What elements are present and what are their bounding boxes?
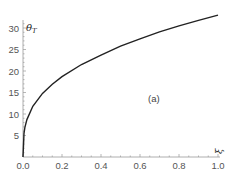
x-tick-label: 1.0 [211, 160, 224, 171]
axes [23, 20, 220, 157]
theta-curve [23, 15, 218, 157]
y-tick-label: 10 [8, 109, 19, 120]
y-tick-label: 15 [8, 87, 19, 98]
y-tick-label: 25 [8, 44, 19, 55]
y-tick-label: 20 [8, 66, 19, 77]
panel-label: (a) [148, 93, 160, 104]
x-axis-label: ξ [213, 148, 224, 154]
x-tick-label: 0.2 [55, 160, 68, 171]
x-tick-label: 0.8 [172, 160, 185, 171]
x-tick-label: 0.6 [133, 160, 146, 171]
y-tick-label: 30 [8, 23, 19, 34]
line-chart: 0.00.20.40.60.81.051015202530 θT ξ (a) [0, 0, 235, 175]
x-tick-label: 0.0 [16, 160, 29, 171]
x-tick-label: 0.4 [94, 160, 107, 171]
y-tick-label: 5 [14, 130, 19, 141]
y-axis-label: θT [26, 22, 38, 35]
